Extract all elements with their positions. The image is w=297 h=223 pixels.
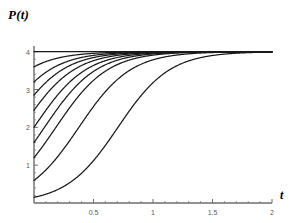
- x-axis-title: t: [280, 189, 283, 201]
- plot-canvas: [0, 0, 297, 223]
- solution-curve: [34, 52, 272, 181]
- solution-curves: [34, 52, 272, 198]
- major-ticks: [34, 52, 272, 203]
- y-tick-label: 1: [20, 162, 30, 169]
- solution-curve: [34, 52, 272, 158]
- y-tick-label: 2: [20, 124, 30, 131]
- x-tick-label: 2: [270, 209, 274, 216]
- x-tick-label: 1.5: [208, 209, 218, 216]
- y-tick-label: 3: [20, 86, 30, 93]
- x-tick-label: 0.5: [89, 209, 99, 216]
- solution-curve: [34, 52, 272, 96]
- y-axis-title: P(t): [8, 8, 29, 21]
- x-tick-label: 1: [151, 209, 155, 216]
- solution-curve: [34, 52, 272, 197]
- solution-curve: [34, 52, 272, 128]
- y-tick-label: 4: [20, 48, 30, 55]
- logistic-growth-figure: P(t) t 0.511.52 1234: [0, 0, 297, 223]
- minor-ticks: [34, 59, 260, 203]
